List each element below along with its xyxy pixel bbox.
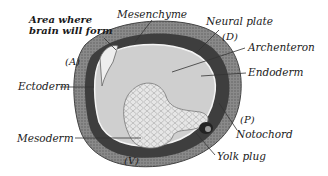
label-archenteron: Archenteron	[248, 42, 315, 53]
embryo-diagram: Area where brain will form Mesenchyme Ne…	[0, 0, 328, 176]
label-anterior: (A)	[65, 56, 80, 67]
label-ventral: (V)	[124, 155, 139, 166]
label-endoderm: Endoderm	[248, 67, 303, 78]
label-notochord: Notochord	[236, 129, 293, 140]
label-brain-area-line2: brain will form	[29, 25, 113, 36]
label-mesoderm: Mesoderm	[17, 133, 74, 144]
label-brain-area-line1: Area where	[29, 14, 92, 25]
label-neural-plate: Neural plate	[206, 16, 273, 27]
label-yolk-plug: Yolk plug	[217, 151, 266, 162]
label-ectoderm: Ectoderm	[18, 81, 70, 92]
label-posterior: (P)	[240, 114, 255, 125]
label-mesenchyme: Mesenchyme	[117, 9, 187, 20]
label-dorsal: (D)	[222, 31, 238, 42]
